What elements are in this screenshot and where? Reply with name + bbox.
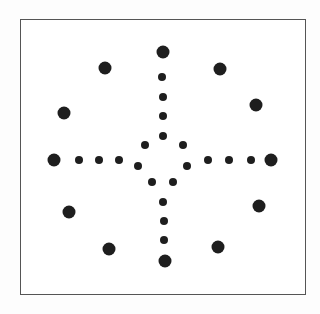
small-dot <box>95 156 103 164</box>
small-dot <box>158 73 166 81</box>
small-dot <box>183 162 191 170</box>
small-dot <box>179 141 187 149</box>
large-dot <box>99 62 112 75</box>
large-dot <box>157 46 170 59</box>
small-dot <box>75 156 83 164</box>
large-dot <box>253 200 266 213</box>
large-dot <box>48 154 61 167</box>
large-dot <box>212 241 225 254</box>
dot-pattern-diagram <box>0 0 320 314</box>
large-dot <box>58 107 71 120</box>
small-dot <box>159 132 167 140</box>
large-dot <box>214 63 227 76</box>
small-dot <box>160 236 168 244</box>
large-dot <box>265 154 278 167</box>
large-dot <box>103 243 116 256</box>
large-dot <box>159 255 172 268</box>
small-dot <box>225 156 233 164</box>
small-dot <box>247 156 255 164</box>
small-dot <box>115 156 123 164</box>
small-dot <box>204 156 212 164</box>
small-dot <box>160 217 168 225</box>
small-dot <box>159 93 167 101</box>
small-dot <box>159 198 167 206</box>
small-dot <box>159 112 167 120</box>
small-dot <box>141 141 149 149</box>
large-dot <box>63 206 76 219</box>
small-dot <box>134 162 142 170</box>
small-dot <box>148 178 156 186</box>
small-dot <box>169 178 177 186</box>
large-dot <box>250 99 263 112</box>
